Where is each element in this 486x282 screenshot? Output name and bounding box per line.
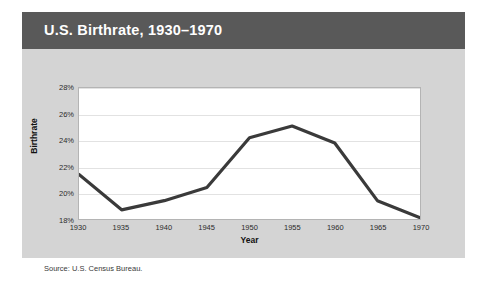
x-tick-label: 1970: [413, 223, 430, 232]
y-tick-label: 22%: [28, 162, 74, 171]
x-tick-label: 1945: [198, 223, 215, 232]
plot-area: [78, 87, 421, 220]
birthrate-line: [79, 126, 420, 218]
x-tick-label: 1935: [113, 223, 130, 232]
x-tick-label: 1960: [327, 223, 344, 232]
chart-header-bar: U.S. Birthrate, 1930–1970: [22, 12, 465, 49]
y-tick-label: 24%: [28, 136, 74, 145]
plot-region: Birthrate 18%20%22%24%26%28% 19301935194…: [22, 49, 465, 258]
x-axis-title: Year: [78, 235, 421, 245]
y-tick-label: 26%: [28, 109, 74, 118]
x-tick-label: 1965: [370, 223, 387, 232]
x-tick-label: 1930: [70, 223, 87, 232]
y-tick-label: 20%: [28, 189, 74, 198]
source-note: Source: U.S. Census Bureau.: [44, 264, 142, 273]
chart-title: U.S. Birthrate, 1930–1970: [44, 22, 222, 38]
x-tick-label: 1955: [284, 223, 301, 232]
y-axis-ticks: 18%20%22%24%26%28%: [22, 87, 74, 220]
figure-card: U.S. Birthrate, 1930–1970 Birthrate 18%2…: [22, 12, 465, 258]
x-tick-label: 1940: [155, 223, 172, 232]
y-tick-label: 28%: [28, 83, 74, 92]
birthrate-line-series: [79, 88, 420, 219]
y-tick-label: 18%: [28, 216, 74, 225]
x-tick-label: 1950: [241, 223, 258, 232]
